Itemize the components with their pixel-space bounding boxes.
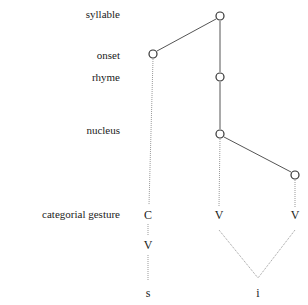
node-rhyme bbox=[216, 73, 224, 81]
node-onset bbox=[149, 50, 157, 58]
symbol-onset-v: V bbox=[144, 238, 153, 253]
segment-s: s bbox=[146, 286, 151, 301]
symbol-nucleus-v2: V bbox=[291, 208, 300, 223]
symbol-nucleus-v1: V bbox=[215, 208, 224, 223]
symbol-onset-c: C bbox=[144, 208, 152, 223]
node-nucleus-second bbox=[291, 171, 299, 179]
node-syllable bbox=[216, 12, 224, 20]
tree-diagram bbox=[0, 0, 308, 305]
segment-i: i bbox=[256, 286, 259, 301]
node-nucleus bbox=[216, 130, 224, 138]
